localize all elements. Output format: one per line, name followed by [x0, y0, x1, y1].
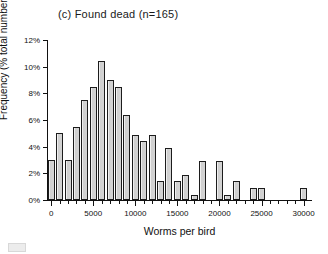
- x-tick-minor: [270, 201, 271, 204]
- histogram-bar: [81, 100, 88, 200]
- histogram-bar: [216, 161, 223, 200]
- x-tick-minor: [295, 201, 296, 204]
- y-tick: [43, 147, 47, 148]
- histogram-bar: [165, 148, 172, 200]
- y-tick: [43, 67, 47, 68]
- x-tick-minor: [278, 201, 279, 204]
- x-tick-minor: [102, 201, 103, 204]
- x-tick-minor: [186, 201, 187, 204]
- y-tick-label: 8%: [28, 89, 40, 98]
- histogram-bar: [199, 161, 206, 200]
- y-tick: [43, 200, 47, 201]
- x-tick-label: 15000: [166, 209, 188, 218]
- scan-artifact: [8, 243, 26, 252]
- histogram-bar: [115, 87, 122, 200]
- histogram-bar: [224, 195, 231, 200]
- histogram-bar: [90, 87, 97, 200]
- y-tick: [43, 93, 47, 94]
- x-tick-label: 10000: [124, 209, 146, 218]
- histogram-bar: [56, 133, 63, 200]
- y-tick-label: 0%: [28, 196, 40, 205]
- x-tick-minor: [287, 201, 288, 204]
- x-tick-major: [262, 201, 263, 206]
- x-tick-label: 30000: [292, 209, 314, 218]
- figure-panel-c: (c) Found dead (n=165) Frequency (% tota…: [0, 0, 328, 254]
- histogram-bar: [233, 181, 240, 200]
- x-tick-minor: [211, 201, 212, 204]
- x-tick-minor: [169, 201, 170, 204]
- x-tick-major: [177, 201, 178, 206]
- x-axis-line: [47, 200, 312, 201]
- x-tick-major: [51, 201, 52, 206]
- y-tick: [43, 120, 47, 121]
- x-tick-major: [219, 201, 220, 206]
- plot-area: 0%2%4%6%8%10%12% 05000100001500020000250…: [47, 40, 312, 200]
- x-tick-minor: [68, 201, 69, 204]
- histogram-bar: [140, 141, 147, 200]
- y-tick-label: 2%: [28, 169, 40, 178]
- x-tick-label: 0: [49, 209, 53, 218]
- x-tick-major: [135, 201, 136, 206]
- y-tick: [43, 173, 47, 174]
- x-tick-minor: [110, 201, 111, 204]
- chart-title: (c) Found dead (n=165): [58, 8, 178, 20]
- x-tick-minor: [236, 201, 237, 204]
- histogram-bar: [65, 160, 72, 200]
- y-tick: [43, 40, 47, 41]
- x-tick-label: 25000: [250, 209, 272, 218]
- y-tick-label: 10%: [24, 62, 40, 71]
- x-tick-minor: [253, 201, 254, 204]
- x-tick-minor: [76, 201, 77, 204]
- y-tick-label: 12%: [24, 36, 40, 45]
- histogram-bar: [191, 195, 198, 200]
- x-tick-major: [304, 201, 305, 206]
- x-tick-label: 5000: [84, 209, 102, 218]
- x-tick-minor: [60, 201, 61, 204]
- x-axis-label: Worms per bird: [47, 225, 312, 237]
- x-tick-minor: [245, 201, 246, 204]
- x-tick-minor: [144, 201, 145, 204]
- x-tick-minor: [228, 201, 229, 204]
- histogram-bar: [174, 181, 181, 200]
- x-tick-minor: [203, 201, 204, 204]
- y-axis-label: Frequency (% total number of birds): [0, 0, 9, 120]
- histogram-bar: [132, 135, 139, 200]
- histogram-bar: [300, 188, 307, 200]
- x-tick-label: 20000: [208, 209, 230, 218]
- histogram-bar: [107, 80, 114, 200]
- histogram-bar: [98, 61, 105, 200]
- y-tick-label: 4%: [28, 142, 40, 151]
- histogram-bar: [48, 160, 55, 200]
- histogram-bar: [182, 175, 189, 200]
- histogram-bar: [73, 127, 80, 200]
- histogram-bar: [123, 115, 130, 200]
- x-tick-minor: [161, 201, 162, 204]
- histogram-bar: [149, 135, 156, 200]
- x-tick-minor: [152, 201, 153, 204]
- y-tick-label: 6%: [28, 116, 40, 125]
- x-tick-minor: [194, 201, 195, 204]
- x-tick-major: [93, 201, 94, 206]
- x-tick-minor: [85, 201, 86, 204]
- histogram-bar: [258, 188, 265, 200]
- histogram-bar: [157, 181, 164, 200]
- x-tick-minor: [119, 201, 120, 204]
- x-tick-minor: [127, 201, 128, 204]
- histogram-bar: [250, 188, 257, 200]
